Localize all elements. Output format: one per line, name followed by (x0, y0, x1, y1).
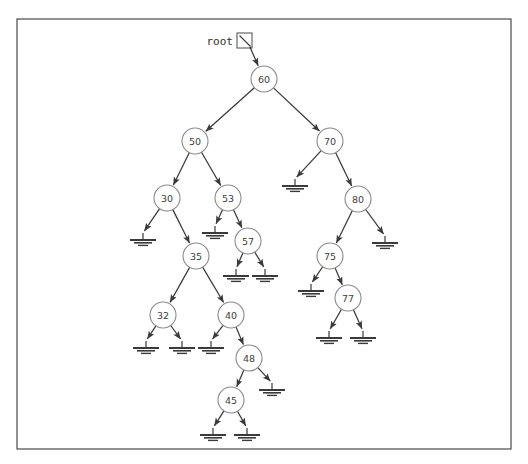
tree-canvas: 6050703053805735757732404845 root (0, 0, 528, 464)
edge-root-to-node (250, 47, 258, 66)
node-circle (183, 243, 209, 269)
null-pointer (252, 269, 278, 281)
edge-35-right (203, 267, 224, 302)
edge-40-right (236, 327, 243, 345)
null-pointer (259, 383, 285, 395)
null-pointer (316, 331, 342, 343)
tree-node-77[interactable]: 77 (335, 285, 361, 311)
edge-70-right (336, 153, 352, 186)
edge-70-left-null (297, 151, 322, 178)
node-circle (215, 185, 241, 211)
edge-80-left (336, 211, 352, 243)
edge-35-left (170, 267, 190, 302)
node-circle (335, 285, 361, 311)
null-pointer (133, 341, 159, 353)
null-pointer (202, 226, 228, 238)
edge-57-right-null (255, 252, 264, 267)
edge-53-left-null (216, 210, 222, 224)
null-pointer (298, 284, 324, 296)
edge-48-right-null (258, 368, 271, 382)
null-pointer (372, 236, 398, 248)
edge-77-right-null (353, 310, 362, 329)
edge-77-left-null (330, 309, 341, 329)
edge-48-left (237, 370, 244, 387)
edge-50-left (173, 153, 189, 185)
edge-80-right-null (366, 210, 384, 234)
tree-edges (144, 88, 383, 426)
edge-50-right (202, 152, 221, 185)
node-circle (345, 186, 371, 212)
node-circle (150, 302, 176, 328)
edge-40-left-null (213, 325, 224, 339)
edge-57-left-null (237, 253, 243, 267)
null-pointer (198, 341, 224, 353)
edge-53-right (233, 210, 241, 228)
edge-60-left (206, 88, 255, 132)
node-circle (235, 228, 261, 254)
root-pointer: root (207, 33, 259, 66)
node-circle (317, 243, 343, 269)
null-pointer (169, 341, 195, 353)
edge-45-right-null (237, 411, 245, 426)
tree-node-70[interactable]: 70 (317, 128, 343, 154)
tree-node-32[interactable]: 32 (150, 302, 176, 328)
node-circle (182, 128, 208, 154)
null-pointer (282, 179, 308, 191)
tree-node-48[interactable]: 48 (236, 345, 262, 371)
node-circle (317, 128, 343, 154)
edge-30-left-null (144, 209, 159, 231)
null-pointer (234, 428, 260, 440)
bst-diagram: 6050703053805735757732404845 root (0, 0, 528, 464)
edge-32-right-null (171, 326, 181, 339)
edge-30-right (173, 210, 190, 243)
null-pointer (223, 269, 249, 281)
tree-node-75[interactable]: 75 (317, 243, 343, 269)
edge-75-right (335, 268, 342, 285)
null-pointer (350, 331, 376, 343)
null-pointer (130, 233, 156, 245)
edge-45-left-null (214, 411, 224, 426)
tree-node-53[interactable]: 53 (215, 185, 241, 211)
tree-node-30[interactable]: 30 (154, 185, 180, 211)
null-pointer (200, 428, 226, 440)
node-circle (251, 66, 277, 92)
tree-node-80[interactable]: 80 (345, 186, 371, 212)
node-circle (218, 387, 244, 413)
edge-60-right (273, 88, 319, 131)
tree-node-50[interactable]: 50 (182, 128, 208, 154)
tree-node-40[interactable]: 40 (218, 302, 244, 328)
edge-75-left-null (312, 267, 322, 282)
root-label: root (207, 35, 234, 48)
tree-node-35[interactable]: 35 (183, 243, 209, 269)
edge-32-left-null (147, 326, 156, 339)
tree-node-57[interactable]: 57 (235, 228, 261, 254)
node-circle (154, 185, 180, 211)
node-circle (218, 302, 244, 328)
node-circle (236, 345, 262, 371)
tree-node-45[interactable]: 45 (218, 387, 244, 413)
tree-node-60[interactable]: 60 (251, 66, 277, 92)
